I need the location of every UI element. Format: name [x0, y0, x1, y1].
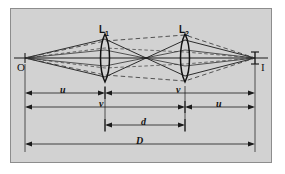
lens-2-label: L2: [179, 25, 189, 37]
dimension-label-u-right: u: [216, 99, 222, 109]
figure-root: L1 L2 O I u v v u d D: [0, 0, 285, 174]
dimension-label-u-left: u: [60, 85, 66, 95]
dimension-label-d: d: [141, 117, 146, 127]
dimension-label-v-left: v: [99, 99, 103, 109]
lens-1-label: L1: [99, 25, 109, 37]
ray-diagram: [0, 0, 285, 174]
object-point-label: O: [17, 62, 25, 73]
dimension-label-v-right: v: [176, 85, 180, 95]
image-point-label: I: [261, 62, 265, 73]
dimension-label-D: D: [136, 136, 143, 146]
